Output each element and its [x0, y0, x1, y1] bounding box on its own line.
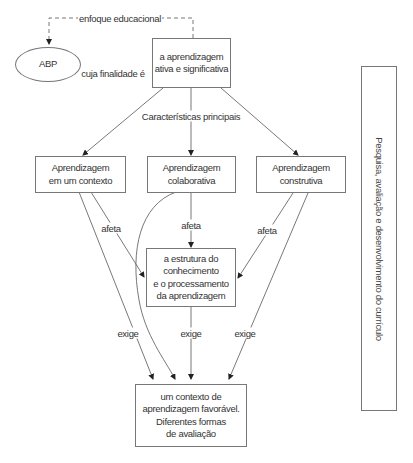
node-active-learning-goal: a aprendizagem ativa e significativa [152, 38, 231, 88]
node-context-label: Aprendizagem em um contexto [49, 162, 112, 187]
node-constructive-label: Aprendizagem construtiva [272, 162, 330, 187]
node-favorable-environment: um contexto de aprendizagem favorável. D… [135, 384, 247, 447]
arrow-constructive-affects-knowledge [238, 193, 293, 278]
label-main-characteristics: Características principais [141, 111, 241, 122]
arrow-context-requires-environment [79, 192, 153, 379]
label-educational-focus: enfoque educacional [78, 13, 162, 24]
node-knowledge-label: a estrutura do conhecimento e o processa… [153, 253, 229, 303]
label-requires-constructive: exige [233, 328, 256, 339]
label-affects-constructive: afeta [256, 225, 278, 236]
label-affects-collaborative: afeta [180, 220, 202, 231]
arrow-goal-to-context [83, 88, 163, 155]
side-panel-label: Pesquisa, avaliação e desenvolvimento do… [374, 137, 385, 341]
node-constructive-learning: Aprendizagem construtiva [256, 156, 346, 193]
node-collaborative-label: Aprendizagem colaborativa [163, 162, 221, 187]
node-collaborative-learning: Aprendizagem colaborativa [147, 156, 236, 193]
node-environment-label: um contexto de aprendizagem favorável. D… [142, 391, 239, 441]
label-requires-context: exige [116, 328, 139, 339]
label-affects-context: afeta [100, 223, 122, 234]
label-whose-goal: cuja finalidade é [80, 68, 146, 79]
arrow-goal-to-constructive [221, 88, 298, 155]
side-panel-curriculum: Pesquisa, avaliação e desenvolvimento do… [361, 66, 397, 411]
node-goal-label: a aprendizagem ativa e significativa [155, 51, 228, 76]
node-abp: ABP [15, 47, 81, 82]
node-knowledge-structure: a estrutura do conhecimento e o processa… [146, 248, 236, 307]
concept-map: ABP a aprendizagem ativa e significativa… [0, 0, 413, 463]
label-requires-knowledge: exige [179, 328, 202, 339]
node-abp-label: ABP [39, 58, 57, 71]
arrow-constructive-requires-environment [229, 193, 308, 379]
node-contextual-learning: Aprendizagem em um contexto [35, 156, 126, 193]
